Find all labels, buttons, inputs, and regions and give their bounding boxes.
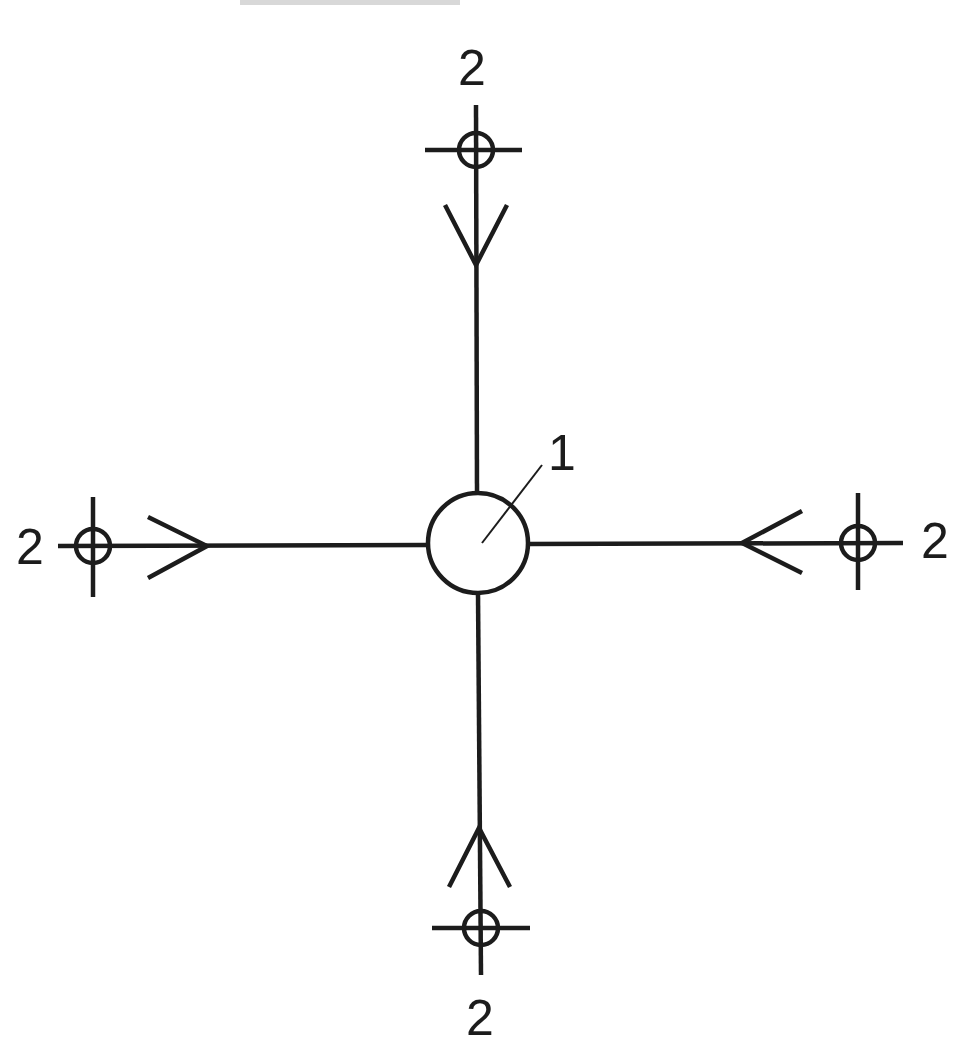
center-node: 1 (428, 425, 576, 593)
peripheral-node-top: 2 (425, 40, 522, 492)
leader-line (482, 465, 542, 543)
peripheral-node-bottom: 2 (432, 593, 530, 1046)
peripheral-node-right: 2 (528, 493, 949, 590)
center-circle-icon (428, 493, 528, 593)
node-label-top: 2 (458, 40, 486, 96)
node-label-right: 2 (921, 513, 949, 569)
node-label-left: 2 (16, 519, 44, 575)
node-label-bottom: 2 (466, 990, 494, 1046)
flow-line-right (528, 543, 903, 544)
flow-line-bottom (478, 593, 481, 975)
peripheral-node-left: 2 (16, 497, 428, 597)
diagram-canvas: 1 2222 (0, 0, 964, 1054)
center-node-label: 1 (548, 425, 576, 481)
flow-line-top (476, 105, 477, 492)
flow-line-left (58, 545, 428, 546)
